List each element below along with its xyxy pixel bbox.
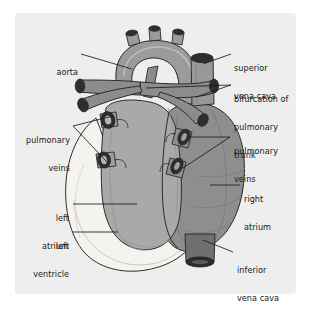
label-aorta: aorta	[28, 49, 78, 96]
label-inferior-vena-cava: inferior vena cava	[237, 247, 307, 312]
heart-anatomy-figure: aorta superior vena cava bifurcation of …	[0, 0, 313, 312]
label-ivc-line2: vena cava	[237, 294, 307, 303]
label-pv-left-line2: veins	[8, 164, 70, 173]
label-pulmonary-veins-left: pulmonary veins	[8, 117, 70, 192]
label-left-ventricle: left ventricle	[8, 223, 69, 298]
label-right-atrium-line1: right	[244, 195, 300, 204]
label-pv-left-line1: pulmonary	[8, 136, 70, 145]
label-bifurcation-line1: bifurcation of	[234, 95, 308, 104]
label-left-atrium-line1: left	[14, 214, 69, 223]
label-left-ventricle-line2: ventricle	[8, 270, 69, 279]
pulmonary-vein-left-upper	[100, 110, 118, 129]
label-aorta-line1: aorta	[28, 68, 78, 77]
label-left-ventricle-line1: left	[8, 242, 69, 251]
label-ivc-line1: inferior	[237, 266, 307, 275]
label-right-atrium: right atrium	[244, 176, 300, 251]
label-pv-right-line1: pulmonary	[234, 147, 300, 156]
label-svc-line1: superior	[234, 64, 304, 73]
inferior-vena-cava-inner	[192, 260, 209, 264]
right-pulmonary-artery	[140, 80, 216, 98]
label-right-atrium-line2: atrium	[244, 223, 300, 232]
